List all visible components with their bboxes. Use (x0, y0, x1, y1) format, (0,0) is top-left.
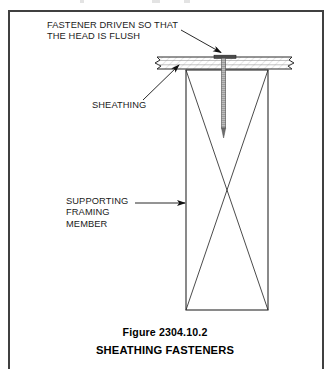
leader-line-sheathing (143, 65, 179, 100)
annotation-fastener-line-1: FASTENER DRIVEN SO THAT (47, 20, 178, 30)
annotation-fastener: FASTENER DRIVEN SO THATTHE HEAD IS FLUSH (47, 20, 178, 43)
fastener-shank (222, 58, 226, 128)
annotation-framing-line-1: SUPPORTING (66, 196, 128, 206)
leader-line-fastener (181, 30, 221, 53)
annotation-sheathing: SHEATHING (92, 100, 146, 111)
annotation-framing-line-3: MEMBER (66, 219, 107, 229)
annotation-fastener-line-2: THE HEAD IS FLUSH (47, 31, 140, 41)
figure-page: FASTENER DRIVEN SO THATTHE HEAD IS FLUSH… (0, 0, 333, 369)
supporting-framing-member (186, 70, 268, 310)
annotation-framing-line-2: FRAMING (66, 207, 110, 217)
figure-number-caption: Figure 2304.10.2 (8, 326, 322, 338)
sheathing-fastener-drawing (0, 0, 333, 369)
figure-title-caption: SHEATHING FASTENERS (8, 344, 322, 356)
annotation-sheathing-label: SHEATHING (92, 100, 146, 110)
annotation-framing-member: SUPPORTINGFRAMINGMEMBER (66, 196, 128, 230)
